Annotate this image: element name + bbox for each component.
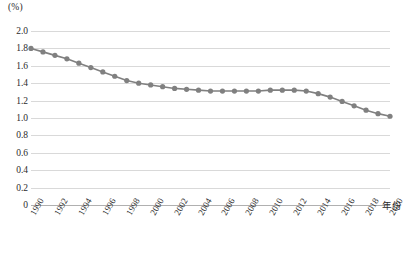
data-point-marker	[136, 81, 141, 86]
data-point-marker	[352, 103, 357, 108]
data-point-marker	[100, 69, 105, 74]
data-point-marker	[40, 49, 45, 54]
line-chart: (%) 00.20.40.60.81.01.21.41.61.82.0 1990…	[0, 0, 405, 259]
y-axis-tick-label: 0.6	[16, 148, 28, 158]
data-point-marker	[184, 87, 189, 92]
data-point-marker	[375, 111, 380, 116]
y-axis-tick-label: 0.4	[16, 165, 28, 175]
y-axis-tick-label: 1.6	[16, 61, 28, 71]
y-axis-tick-label: 2.0	[16, 26, 28, 36]
data-point-marker	[220, 88, 225, 93]
data-point-marker	[52, 53, 57, 58]
data-point-marker	[124, 78, 129, 83]
data-point-marker	[160, 84, 165, 89]
x-axis-title: 年份	[382, 198, 402, 212]
data-point-marker	[268, 88, 273, 93]
data-point-marker	[172, 86, 177, 91]
series-markers	[28, 46, 392, 119]
data-point-marker	[208, 88, 213, 93]
data-point-marker	[148, 82, 153, 87]
data-point-marker	[112, 74, 117, 79]
y-axis-tick-label: 0	[23, 200, 28, 210]
y-axis-tick-label: 1.2	[16, 96, 28, 106]
data-point-marker	[76, 61, 81, 66]
y-axis-tick-labels: 00.20.40.60.81.01.21.41.61.82.0	[0, 0, 28, 259]
y-axis-tick-label: 1.0	[16, 113, 28, 123]
data-point-marker	[292, 88, 297, 93]
data-point-marker	[340, 99, 345, 104]
data-point-marker	[328, 95, 333, 100]
data-point-marker	[304, 88, 309, 93]
y-axis-tick-label: 1.8	[16, 43, 28, 53]
plot-area	[31, 31, 390, 205]
data-point-marker	[363, 108, 368, 113]
data-point-marker	[244, 88, 249, 93]
data-point-marker	[28, 46, 33, 51]
data-series-line	[31, 31, 390, 205]
data-point-marker	[256, 88, 261, 93]
data-point-marker	[88, 65, 93, 70]
data-point-marker	[232, 88, 237, 93]
data-point-marker	[64, 56, 69, 61]
series-polyline	[31, 48, 390, 116]
y-axis-tick-label: 1.4	[16, 78, 28, 88]
y-axis-tick-label: 0.8	[16, 130, 28, 140]
y-axis-tick-label: 0.2	[16, 183, 28, 193]
data-point-marker	[316, 91, 321, 96]
data-point-marker	[280, 88, 285, 93]
data-point-marker	[196, 88, 201, 93]
data-point-marker	[387, 114, 392, 119]
